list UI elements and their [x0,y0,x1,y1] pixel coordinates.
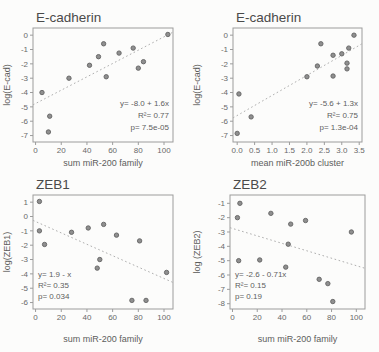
annotation-line: R²= 0.77 [138,111,169,120]
annotation-line: p= 1.3e-04 [320,123,359,132]
data-point [67,76,71,80]
annotation-line: y= -5.6 + 1.3x [309,99,358,108]
data-point [137,239,141,243]
y-tick-label: -5 [21,284,29,293]
x-axis-label: sum miR-200 family [258,334,338,344]
x-tick-label: 60 [302,313,311,322]
y-tick-label: -4 [21,88,29,97]
y-tick-label: -1 [21,227,29,236]
y-tick-label: 1 [24,198,29,207]
data-point [47,114,51,118]
y-axis-label: log(E-cad) [2,64,12,106]
y-tick-label: -4 [21,270,29,279]
x-tick-label: 0.5 [249,146,261,155]
y-axis-label: log(ZEB1) [2,232,12,273]
data-point [288,222,292,226]
y-tick-label: 0 [24,212,29,221]
data-point [117,51,121,55]
data-point [303,218,307,222]
data-point [237,92,241,96]
data-point [166,32,170,36]
y-tick-label: -2 [221,60,229,69]
zeb1-sum-mir200-chart: 02040608010010-1-2-3-4-5-6ZEB1sum miR-20… [0,176,190,352]
x-tick-label: 80 [327,313,336,322]
data-point [114,233,118,237]
figure-mir200-scatter-grid: 0204060801000-1-2-3-4-5-6-7E-cadherinsum… [0,0,379,352]
data-point [258,258,262,262]
x-tick-label: 20 [253,313,262,322]
x-tick-label: 20 [57,313,66,322]
data-point [42,242,46,246]
annotation-line: y= 1.9 - x [38,270,71,279]
data-point [326,281,330,285]
data-point [319,42,323,46]
data-point [305,75,309,79]
x-tick-label: 3.0 [336,146,348,155]
panel-title: ZEB2 [233,177,267,192]
data-point [136,66,140,70]
y-tick-label: -3 [221,74,229,83]
x-tick-label: 20 [57,146,66,155]
data-point [345,67,349,71]
data-point [317,277,321,281]
data-point [95,266,99,270]
y-tick-label: 0 [24,31,29,40]
data-point [101,42,105,46]
data-point [331,74,335,78]
y-tick-label: 0 [224,31,229,40]
annotation-line: p= 7.5e-05 [131,123,170,132]
x-tick-label: 2.0 [301,146,313,155]
x-tick-label: 0.0 [232,146,244,155]
annotation-line: y= -2.6 - 0.71x [235,270,286,279]
x-tick-label: 0 [33,313,38,322]
y-tick-label: -2 [218,213,226,222]
ecadherin-sum-mir200-chart: 0204060801000-1-2-3-4-5-6-7E-cadherinsum… [0,0,190,176]
annotation-line: R²= 0.75 [327,111,358,120]
y-tick-label: -6 [218,271,226,280]
y-tick-label: -6 [21,298,29,307]
x-tick-label: 60 [108,146,117,155]
x-tick-label: 1.5 [284,146,296,155]
data-point [349,230,353,234]
y-tick-label: -2 [21,60,29,69]
y-tick-label: -2 [21,241,29,250]
x-tick-label: 3.5 [354,146,366,155]
panel-title: E-cadherin [36,10,101,25]
x-tick-label: 1.0 [266,146,278,155]
data-point [284,265,288,269]
zeb2-sum-mir200-chart: 020406080100-1-2-3-4-5-6-7-8ZEB2sum miR-… [190,176,379,352]
x-tick-label: 40 [278,313,287,322]
data-point [269,211,273,215]
x-tick-label: 80 [134,313,143,322]
x-tick-label: 100 [157,146,171,155]
y-tick-label: -1 [221,45,229,54]
y-tick-label: -5 [21,103,29,112]
x-axis-label: sum miR-200 family [63,158,143,168]
annotation-line: R²= 0.15 [235,281,266,290]
data-point [352,33,356,37]
data-point [249,115,253,119]
data-point [69,230,73,234]
data-point [37,229,41,233]
data-point [164,270,168,274]
x-tick-label: 0 [33,146,38,155]
y-tick-label: -3 [218,228,226,237]
x-tick-label: 0 [230,313,235,322]
panel-title: ZEB1 [36,177,70,192]
data-point [40,90,44,94]
data-point [331,299,335,303]
y-tick-label: -8 [218,299,226,308]
data-point [104,75,108,79]
panel-zeb1-sum-mir200: 02040608010010-1-2-3-4-5-6ZEB1sum miR-20… [0,176,190,352]
annotation-line: y= -8.0 + 1.6x [120,99,169,108]
y-tick-label: -7 [218,285,226,294]
data-point [86,226,90,230]
data-point [96,54,100,58]
data-point [46,130,50,134]
x-tick-label: 40 [82,146,91,155]
data-point [340,52,344,56]
y-tick-label: -4 [218,242,226,251]
data-point [144,298,148,302]
y-axis-label: log(E-cad) [192,64,202,106]
data-point [37,199,41,203]
